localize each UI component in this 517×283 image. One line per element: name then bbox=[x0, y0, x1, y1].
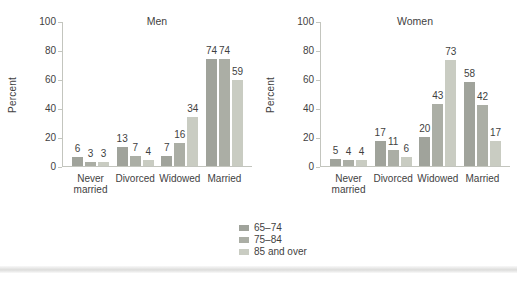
bar-group: 747459Married bbox=[205, 59, 244, 166]
bar-value-label: 73 bbox=[445, 46, 456, 57]
bar-value-label: 4 bbox=[145, 146, 151, 157]
y-tick-label: 40 bbox=[280, 103, 314, 115]
bar-value-label: 16 bbox=[174, 129, 185, 140]
bar-value-label: 43 bbox=[432, 90, 443, 101]
y-tick-label: 60 bbox=[280, 74, 314, 86]
bar: 6 bbox=[72, 157, 83, 166]
bar: 34 bbox=[187, 117, 198, 166]
bar: 4 bbox=[343, 160, 354, 166]
y-tick-label: 20 bbox=[22, 132, 56, 144]
bar: 7 bbox=[130, 156, 141, 166]
bar: 7 bbox=[161, 156, 172, 166]
bar-group: 1374Divorced bbox=[116, 147, 155, 166]
legend-item: 85 and over bbox=[239, 246, 307, 258]
y-tick-label: 80 bbox=[22, 45, 56, 57]
plot-area: 633Never married1374Divorced71634Widowed… bbox=[62, 22, 252, 167]
bar: 74 bbox=[206, 59, 217, 166]
legend-label: 75–84 bbox=[254, 234, 282, 246]
bar-value-label: 20 bbox=[419, 123, 430, 134]
y-tick-mark bbox=[58, 167, 62, 168]
y-tick-label: 100 bbox=[280, 16, 314, 28]
bar: 43 bbox=[432, 104, 443, 166]
bar: 5 bbox=[330, 159, 341, 166]
plot-area: 544Never married17116Divorced204373Widow… bbox=[320, 22, 510, 167]
y-tick-mark bbox=[316, 167, 320, 168]
bar: 73 bbox=[445, 60, 456, 166]
bar-value-label: 3 bbox=[101, 148, 107, 159]
legend: 65–7475–8485 and over bbox=[239, 222, 307, 258]
marital-status-figure: Percent020406080100Men633Never married13… bbox=[0, 0, 517, 283]
bar-value-label: 6 bbox=[75, 143, 81, 154]
y-axis-label: Percent bbox=[264, 22, 276, 167]
bar: 58 bbox=[464, 82, 475, 166]
bar: 42 bbox=[477, 105, 488, 166]
bar-value-label: 74 bbox=[219, 45, 230, 56]
bar: 17 bbox=[490, 141, 501, 166]
chart-women: Percent020406080100Women544Never married… bbox=[258, 0, 516, 215]
y-axis-label-text: Percent bbox=[265, 77, 276, 113]
page-shadow-band bbox=[0, 266, 517, 273]
bar: 11 bbox=[388, 150, 399, 166]
category-label: Married bbox=[454, 173, 510, 184]
bar-value-label: 17 bbox=[490, 127, 501, 138]
bar-value-label: 6 bbox=[403, 143, 409, 154]
legend-swatch bbox=[239, 249, 249, 255]
bar: 16 bbox=[174, 143, 185, 166]
bar-value-label: 42 bbox=[477, 91, 488, 102]
y-axis-label: Percent bbox=[6, 22, 18, 167]
legend-swatch bbox=[239, 237, 249, 243]
y-tick-label: 20 bbox=[280, 132, 314, 144]
bar-value-label: 4 bbox=[359, 146, 365, 157]
bar-value-label: 3 bbox=[88, 148, 94, 159]
y-tick-label: 80 bbox=[280, 45, 314, 57]
bar-value-label: 7 bbox=[164, 142, 170, 153]
bar: 3 bbox=[85, 162, 96, 166]
bar-group: 544Never married bbox=[329, 159, 368, 166]
bar-group: 584217Married bbox=[463, 82, 502, 166]
bar: 17 bbox=[375, 141, 386, 166]
bar-group: 633Never married bbox=[71, 157, 110, 166]
y-tick-label: 60 bbox=[22, 74, 56, 86]
bar-value-label: 4 bbox=[346, 146, 352, 157]
bar: 20 bbox=[419, 137, 430, 166]
bar-value-label: 59 bbox=[232, 66, 243, 77]
legend-label: 65–74 bbox=[254, 222, 282, 234]
bar: 6 bbox=[401, 157, 412, 166]
bar: 4 bbox=[356, 160, 367, 166]
bar-value-label: 34 bbox=[187, 103, 198, 114]
y-axis-label-text: Percent bbox=[7, 77, 18, 113]
legend-label: 85 and over bbox=[254, 246, 307, 258]
bar-value-label: 74 bbox=[206, 45, 217, 56]
bar: 3 bbox=[98, 162, 109, 166]
bar-value-label: 58 bbox=[464, 68, 475, 79]
chart-men: Percent020406080100Men633Never married13… bbox=[0, 0, 258, 215]
y-tick-label: 40 bbox=[22, 103, 56, 115]
bar-value-label: 13 bbox=[117, 133, 128, 144]
bar-group: 204373Widowed bbox=[418, 60, 457, 166]
legend-item: 75–84 bbox=[239, 234, 307, 246]
bar-group: 17116Divorced bbox=[374, 141, 413, 166]
bar-value-label: 11 bbox=[388, 136, 398, 147]
category-label: Married bbox=[196, 173, 252, 184]
y-tick-label: 0 bbox=[22, 161, 56, 173]
bar-value-label: 5 bbox=[333, 145, 339, 156]
y-tick-label: 0 bbox=[280, 161, 314, 173]
bar-value-label: 7 bbox=[132, 142, 138, 153]
bar-group: 71634Widowed bbox=[160, 117, 199, 166]
bar-value-label: 17 bbox=[375, 127, 386, 138]
legend-swatch bbox=[239, 225, 249, 231]
bar: 4 bbox=[143, 160, 154, 166]
bar: 13 bbox=[117, 147, 128, 166]
legend-item: 65–74 bbox=[239, 222, 307, 234]
y-tick-label: 100 bbox=[22, 16, 56, 28]
bar: 74 bbox=[219, 59, 230, 166]
bar: 59 bbox=[232, 80, 243, 166]
